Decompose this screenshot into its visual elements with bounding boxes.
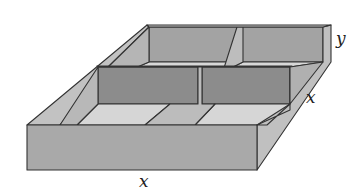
divider-cross-right-face (202, 67, 290, 104)
label-width-x: x (139, 171, 149, 191)
divider-cross-top (97, 66, 292, 67)
back-wall-top (147, 25, 331, 27)
front-face (27, 125, 257, 170)
divider-cross-left-face (98, 67, 198, 104)
box-diagram: y x x (0, 0, 362, 193)
label-depth-x: x (306, 87, 316, 107)
label-height-y: y (335, 28, 346, 48)
